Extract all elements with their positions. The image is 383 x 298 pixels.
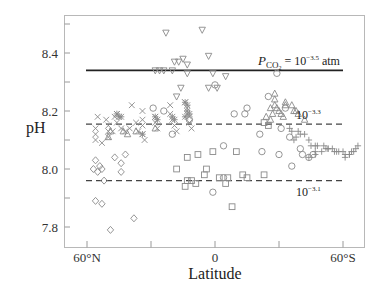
circle-marker xyxy=(186,117,192,123)
asterisk-marker xyxy=(118,114,124,120)
triangle-down-marker xyxy=(199,27,205,33)
triangle-up-marker xyxy=(263,113,269,119)
x-tick-label: 60°S xyxy=(330,250,355,265)
plus-marker xyxy=(301,131,307,137)
circle-marker xyxy=(220,175,226,181)
square-marker xyxy=(182,184,188,190)
asterisk-marker xyxy=(184,102,190,108)
diamond-marker xyxy=(107,226,113,233)
y-axis: 8.48.28.07.8 xyxy=(42,24,70,235)
circle-marker xyxy=(150,105,156,111)
pco2-3.1-label: 10−3.1 xyxy=(296,185,321,199)
circle-marker xyxy=(210,189,216,195)
diamond-marker xyxy=(92,197,98,204)
triangle-down-marker xyxy=(163,30,169,36)
square-marker xyxy=(210,149,216,155)
x-marker xyxy=(99,140,105,146)
diamond-marker xyxy=(112,154,118,161)
circle-marker xyxy=(257,131,263,137)
triangle-down-marker xyxy=(205,85,211,91)
x-marker xyxy=(140,117,146,123)
diamond-marker xyxy=(92,157,98,164)
circle-marker xyxy=(276,151,282,157)
scatter-chart: 8.48.28.07.8 60°N060°S pH Latitude PCO2 … xyxy=(0,0,383,298)
y-tick-label: 7.8 xyxy=(42,220,58,235)
triangle-down-marker xyxy=(205,53,211,59)
square-marker xyxy=(229,204,235,210)
square-marker xyxy=(174,166,180,172)
square-marker xyxy=(223,181,229,187)
y-tick-label: 8.0 xyxy=(42,162,58,177)
x-marker xyxy=(103,117,109,123)
square-marker xyxy=(233,149,239,155)
asterisk-marker xyxy=(154,117,160,123)
square-marker xyxy=(201,172,207,178)
pco2-3.3-label: 10−3.3 xyxy=(296,108,321,122)
circle-marker xyxy=(242,111,248,117)
triangle-down-marker xyxy=(184,62,190,68)
y-tick-label: 8.2 xyxy=(42,104,58,119)
asterisk-marker xyxy=(171,117,177,123)
x-marker xyxy=(140,108,146,114)
x-marker xyxy=(142,137,148,143)
diamond-marker xyxy=(118,168,124,175)
diamond-marker xyxy=(99,200,105,207)
plus-marker xyxy=(342,154,348,160)
plus-marker xyxy=(312,151,318,157)
x-marker xyxy=(172,123,178,129)
x-marker xyxy=(189,126,195,132)
reference-line-labels: PCO2 = 10−3.5 atm10−3.310−3.1 xyxy=(257,53,341,198)
asterisk-marker xyxy=(139,131,145,137)
x-marker xyxy=(140,123,146,129)
circle-marker xyxy=(220,143,226,149)
plus-marker xyxy=(306,137,312,143)
plus-marker xyxy=(318,148,324,154)
y-tick-label: 8.4 xyxy=(42,46,59,61)
triangle-down-marker xyxy=(178,85,184,91)
square-marker xyxy=(184,155,190,161)
circle-marker xyxy=(289,163,295,169)
diamond-marker xyxy=(131,215,137,222)
triangle-down-marker xyxy=(184,71,190,77)
x-axis-label: Latitude xyxy=(188,265,241,282)
circle-marker xyxy=(265,93,271,99)
x-marker xyxy=(93,131,99,137)
x-marker xyxy=(95,114,101,120)
circle-marker xyxy=(259,148,265,154)
x-marker xyxy=(167,102,173,108)
x-tick-label: 0 xyxy=(212,250,219,265)
square-marker xyxy=(204,166,210,172)
x-marker xyxy=(93,137,99,143)
square-marker xyxy=(195,152,201,158)
y-axis-label: pH xyxy=(26,119,46,137)
x-axis: 60°N060°S xyxy=(73,241,356,265)
circle-marker xyxy=(161,108,167,114)
x-marker xyxy=(129,102,135,108)
square-marker xyxy=(261,172,267,178)
x-tick-label: 60°N xyxy=(73,250,101,265)
circle-marker xyxy=(169,131,175,137)
circle-marker xyxy=(299,151,305,157)
circle-marker xyxy=(278,125,284,131)
triangle-down-marker xyxy=(222,74,228,80)
triangle-down-marker xyxy=(210,71,216,77)
diamond-marker xyxy=(118,160,124,167)
triangle-down-marker xyxy=(173,94,179,100)
diamond-marker xyxy=(122,151,128,158)
circle-marker xyxy=(231,111,237,117)
circle-marker xyxy=(286,134,292,140)
x-marker xyxy=(93,126,99,132)
x-marker xyxy=(174,128,180,134)
pco2-label: PCO2 = 10−3.5 atm xyxy=(257,53,341,71)
plot-frame xyxy=(65,16,365,248)
diamond-marker xyxy=(90,165,96,172)
